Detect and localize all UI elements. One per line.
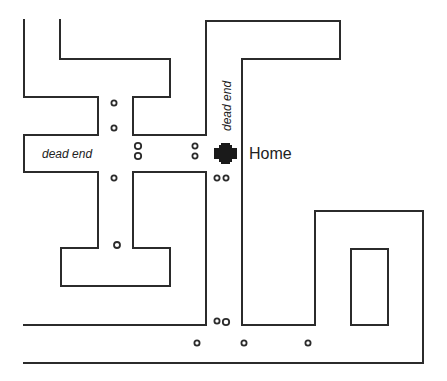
- circle-marker-icon: [111, 125, 116, 130]
- home-label: Home: [249, 145, 292, 162]
- circle-marker-icon: [223, 319, 229, 325]
- street-top-left-inner: [24, 20, 423, 363]
- circle-marker-icon: [223, 175, 228, 180]
- circle-marker-icon: [241, 340, 246, 345]
- street-inner-block: [351, 249, 388, 325]
- streets: [24, 20, 423, 363]
- circle-marker-icon: [305, 340, 310, 345]
- circle-marker-icon: [192, 143, 197, 148]
- street-map: dead end dead end Home: [0, 0, 447, 381]
- circle-marker-icon: [214, 175, 219, 180]
- circle-marker-icon: [135, 153, 141, 159]
- circle-marker-icon: [135, 143, 141, 149]
- circle-marker-icon: [114, 242, 120, 248]
- markers: [111, 100, 310, 345]
- dead-end-label-left: dead end: [42, 147, 92, 161]
- street-top-left-outer: [24, 20, 206, 325]
- circle-marker-icon: [192, 153, 197, 158]
- dead-end-label-vertical: dead end: [220, 81, 234, 131]
- circle-marker-icon: [214, 318, 219, 323]
- circle-marker-icon: [111, 175, 116, 180]
- circle-marker-icon: [194, 340, 199, 345]
- home-cross-icon: [214, 143, 237, 164]
- circle-marker-icon: [111, 100, 116, 105]
